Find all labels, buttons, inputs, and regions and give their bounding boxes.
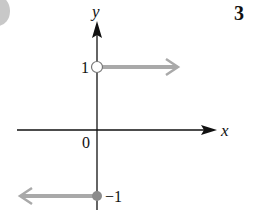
origin-label: 0 xyxy=(82,134,90,151)
x-axis-label: x xyxy=(220,121,229,140)
y-axis xyxy=(92,21,102,210)
function-graph-figure: 3 x y 0 1 −1 xyxy=(0,0,260,212)
closed-dot-icon xyxy=(92,191,102,201)
y-axis-label: y xyxy=(90,2,100,21)
y-tick-label-1: 1 xyxy=(81,59,89,76)
x-axis xyxy=(17,125,217,135)
y-tick-label-neg1: −1 xyxy=(105,188,122,205)
graph-canvas: x y 0 1 −1 xyxy=(0,0,260,212)
graph-right-ray xyxy=(102,59,178,75)
problem-number: 3 xyxy=(234,2,244,25)
graph-left-ray xyxy=(20,188,95,204)
open-dot-icon xyxy=(92,62,103,73)
